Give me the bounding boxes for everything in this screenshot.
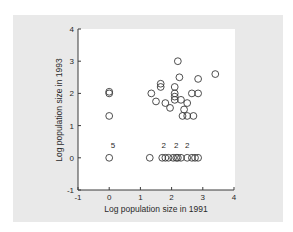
plot-area xyxy=(78,29,235,190)
y-tick-label: 3 xyxy=(70,57,75,66)
count-annotation: 2 xyxy=(185,141,190,150)
x-tick-label: 0 xyxy=(107,193,112,202)
x-tick-label: 3 xyxy=(201,193,206,202)
y-tick-label: 1 xyxy=(70,122,75,131)
x-tick-label: 1 xyxy=(138,193,143,202)
x-axis-title: Log population size in 1991 xyxy=(104,204,208,214)
scatter-chart: -101234-101234 5222 Log population size … xyxy=(0,0,293,232)
y-tick-label: 4 xyxy=(70,25,75,34)
x-tick-label: 2 xyxy=(169,193,174,202)
y-tick-label: -1 xyxy=(67,186,75,195)
y-axis-title: Log population size in 1993 xyxy=(54,58,64,162)
x-tick-label: -1 xyxy=(74,193,82,202)
count-annotation: 2 xyxy=(162,141,167,150)
x-tick-label: 4 xyxy=(232,193,237,202)
y-tick-label: 0 xyxy=(70,154,75,163)
count-annotation: 2 xyxy=(174,141,179,150)
y-tick-label: 2 xyxy=(70,89,75,98)
count-annotation: 5 xyxy=(111,141,116,150)
